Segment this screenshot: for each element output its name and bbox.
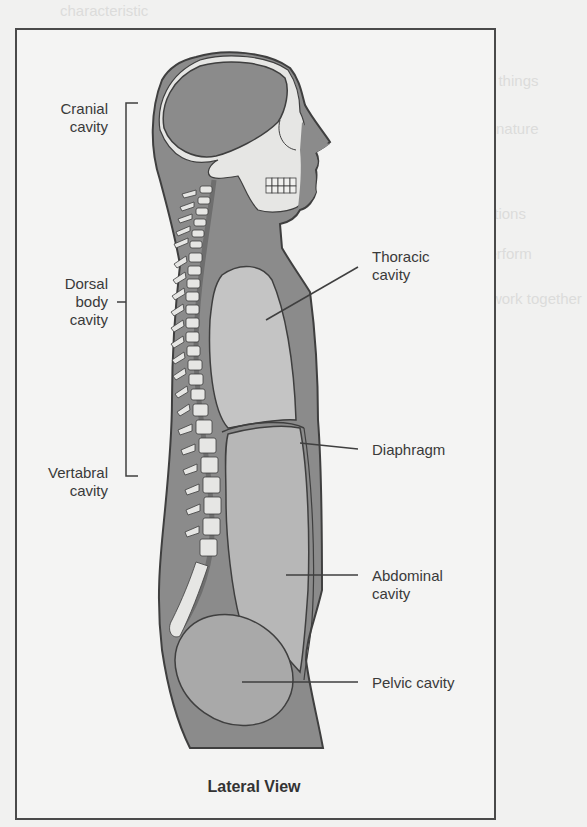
label-line: cavity <box>372 585 443 603</box>
label-line: cavity <box>30 311 108 329</box>
label-diaphragm: Diaphragm <box>372 441 445 459</box>
dorsal-bracket <box>117 103 138 476</box>
label-line: cavity <box>30 118 108 136</box>
label-dorsal-body-cavity: Dorsal body cavity <box>30 275 108 329</box>
label-thoracic-cavity: Thoracic cavity <box>372 248 430 284</box>
label-line: body <box>30 293 108 311</box>
label-line: Abdominal <box>372 567 443 585</box>
label-pelvic-cavity: Pelvic cavity <box>372 674 455 692</box>
label-line: Cranial <box>30 100 108 118</box>
label-cranial-cavity: Cranial cavity <box>30 100 108 136</box>
label-vertebral-cavity: Vertabral cavity <box>20 464 108 500</box>
label-line: Vertabral <box>20 464 108 482</box>
teeth <box>266 178 296 193</box>
label-line: cavity <box>20 482 108 500</box>
figure-caption: Lateral View <box>0 778 508 796</box>
label-line: Thoracic <box>372 248 430 266</box>
label-line: cavity <box>372 266 430 284</box>
label-line: Diaphragm <box>372 441 445 459</box>
label-abdominal-cavity: Abdominal cavity <box>372 567 443 603</box>
label-line: Pelvic cavity <box>372 674 455 692</box>
label-line: Dorsal <box>30 275 108 293</box>
